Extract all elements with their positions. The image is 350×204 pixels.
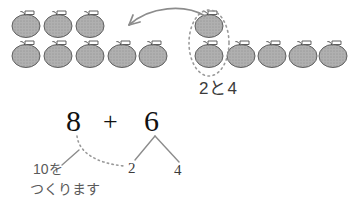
apple xyxy=(227,41,255,68)
apple-row-left-top xyxy=(12,11,104,38)
hint-line-2: つくります xyxy=(30,178,100,198)
equation-plus-operator: + xyxy=(103,107,118,137)
make-ten-dotted-arc xyxy=(77,136,124,166)
group-label-2-and-4: 2と4 xyxy=(199,74,238,99)
apple xyxy=(195,41,223,68)
hint-pointer-line xyxy=(62,150,79,165)
equation-left-operand: 8 xyxy=(66,104,81,138)
apple xyxy=(44,41,72,68)
apple xyxy=(12,11,40,38)
apple xyxy=(108,41,136,68)
apple-group-right xyxy=(195,11,347,68)
apple xyxy=(319,41,347,68)
hint-line-1: 10を xyxy=(33,158,63,178)
equation-right-operand: 6 xyxy=(144,104,159,138)
decomposition-branch xyxy=(135,136,179,162)
apple xyxy=(139,41,167,68)
apple xyxy=(289,41,317,68)
apple xyxy=(44,11,72,38)
apple xyxy=(258,41,286,68)
worksheet-canvas: 2と4 8 + 6 2 4 10を つくります xyxy=(0,0,350,204)
apple xyxy=(76,11,104,38)
apple xyxy=(12,41,40,68)
decomposition-part-b: 4 xyxy=(174,162,182,179)
decomposition-part-a: 2 xyxy=(128,160,136,177)
apple-group-left xyxy=(12,11,167,68)
apple xyxy=(76,41,104,68)
apple-row-left-bottom xyxy=(12,41,167,68)
apple-row-right-bottom xyxy=(195,41,347,68)
